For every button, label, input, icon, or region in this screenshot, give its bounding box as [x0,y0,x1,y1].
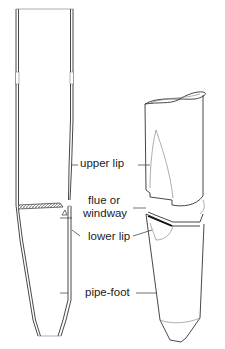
leader-lines [60,165,157,293]
label-lower-lip: lower lip [88,230,130,243]
organ-pipe-diagram: upper lip flue or windway lower lip pipe… [0,0,225,349]
label-flue-line1: flue or [88,194,120,207]
label-flue-line2: windway [83,207,127,220]
cross-section-pipe [16,9,74,336]
label-upper-lip: upper lip [80,157,124,170]
exterior-pipe [145,92,205,342]
label-pipe-foot: pipe-foot [85,286,130,299]
